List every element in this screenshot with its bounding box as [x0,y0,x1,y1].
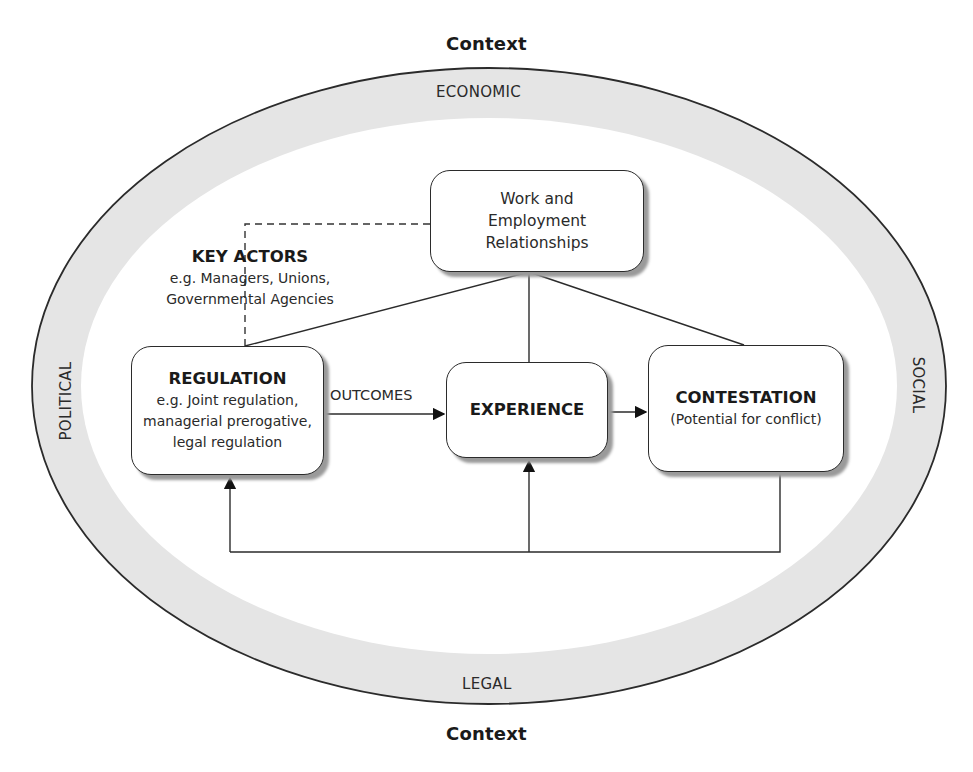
work-line-3: Relationships [485,232,588,254]
regulation-line-1: e.g. Joint regulation, [157,390,299,411]
key-actors-line-2: Governmental Agencies [140,289,360,310]
context-label-bottom: Context [0,723,973,744]
contestation-title: CONTESTATION [675,387,816,409]
regulation-title: REGULATION [168,368,286,390]
outcomes-label: OUTCOMES [330,387,412,403]
work-line-2: Employment [488,210,586,232]
key-actors-line-1: e.g. Managers, Unions, [140,268,360,289]
ring-label-social: SOCIAL [909,335,927,435]
context-label-top: Context [0,33,973,54]
node-contestation: CONTESTATION (Potential for conflict) [648,345,844,472]
experience-title: EXPERIENCE [470,399,585,421]
node-regulation: REGULATION e.g. Joint regulation, manage… [131,346,324,475]
regulation-line-3: legal regulation [173,432,282,453]
node-work-employment: Work and Employment Relationships [430,170,644,272]
work-line-1: Work and [500,188,573,210]
node-experience: EXPERIENCE [446,362,608,458]
regulation-line-2: managerial prerogative, [143,411,312,432]
contestation-subtitle: (Potential for conflict) [670,409,821,430]
ring-label-political: POLITICAL [57,351,75,451]
ring-label-legal: LEGAL [462,675,512,693]
ring-label-economic: ECONOMIC [436,83,521,101]
key-actors-block: KEY ACTORS e.g. Managers, Unions, Govern… [140,246,360,310]
key-actors-title: KEY ACTORS [140,246,360,268]
